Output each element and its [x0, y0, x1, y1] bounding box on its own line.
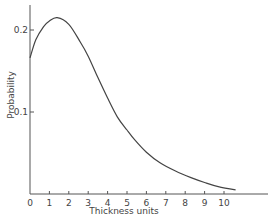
y-tick-label: 0.2	[14, 25, 28, 35]
probability-chart: 012345678910 0.10.2 Thickness units Prob…	[0, 0, 274, 220]
probability-curve	[30, 18, 236, 190]
x-tick-label: 10	[218, 198, 230, 208]
axes	[30, 5, 268, 194]
x-tick-label: 2	[66, 198, 72, 208]
x-tick-label: 9	[202, 198, 208, 208]
x-tick-label: 1	[47, 198, 53, 208]
x-tick-label: 7	[163, 198, 169, 208]
x-axis-title: Thickness units	[88, 206, 159, 216]
y-ticks: 0.10.2	[14, 25, 34, 117]
x-tick-label: 0	[27, 198, 33, 208]
y-axis-title: Probability	[6, 71, 16, 119]
x-tick-label: 8	[182, 198, 188, 208]
